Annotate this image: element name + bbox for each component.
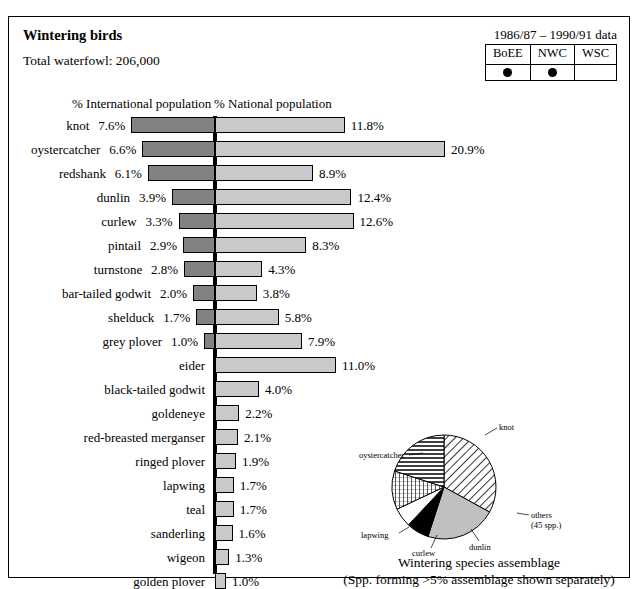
bar-international bbox=[196, 309, 215, 325]
column-header-national: % National population bbox=[214, 96, 332, 112]
species-label: curlew bbox=[9, 214, 137, 230]
species-label: golden plover bbox=[9, 574, 205, 589]
international-value-label: 7.6% bbox=[98, 118, 125, 134]
species-label: black-tailed godwit bbox=[9, 382, 205, 398]
bar-national bbox=[215, 237, 306, 253]
pie-label-knot: knot bbox=[499, 423, 514, 433]
national-value-label: 8.3% bbox=[312, 238, 339, 254]
species-label: lapwing bbox=[9, 478, 205, 494]
national-value-label: 4.3% bbox=[268, 262, 295, 278]
pie-label-lapwing: lapwing bbox=[361, 531, 388, 541]
international-value-label: 6.6% bbox=[109, 142, 136, 158]
national-value-label: 12.6% bbox=[360, 214, 394, 230]
national-value-label: 2.1% bbox=[244, 430, 271, 446]
bar-international bbox=[172, 189, 215, 205]
bar-national bbox=[215, 261, 262, 277]
filled-dot-icon bbox=[548, 68, 557, 77]
pie-chart: oystercatcher knot others (45 spp.) dunl… bbox=[339, 409, 629, 574]
row-label-group: knot7.6% bbox=[9, 115, 131, 139]
species-label: goldeneye bbox=[9, 406, 205, 422]
bar-national bbox=[215, 429, 238, 445]
international-value-label: 3.3% bbox=[146, 214, 173, 230]
international-value-label: 1.7% bbox=[163, 310, 190, 326]
species-label: pintail bbox=[9, 238, 141, 254]
pie-caption-line2: (Spp. forming >5% assemblage shown separ… bbox=[329, 572, 629, 589]
chart-row: redshank6.1%8.9% bbox=[9, 163, 629, 187]
species-label: ringed plover bbox=[9, 454, 205, 470]
row-label-group: redshank6.1% bbox=[9, 163, 148, 187]
species-label: teal bbox=[9, 502, 205, 518]
row-label-group: teal bbox=[9, 499, 215, 523]
bar-national bbox=[215, 285, 257, 301]
row-label-group: ringed plover bbox=[9, 451, 215, 475]
bar-national bbox=[215, 525, 233, 541]
chart-row: grey plover1.0%7.9% bbox=[9, 331, 629, 355]
survey-marks-row bbox=[485, 64, 616, 81]
international-value-label: 6.1% bbox=[115, 166, 142, 182]
pie-label-others-line2: (45 spp.) bbox=[531, 520, 561, 530]
bar-national bbox=[215, 333, 302, 349]
bar-national bbox=[215, 165, 313, 181]
bar-international bbox=[184, 261, 215, 277]
international-value-label: 3.9% bbox=[139, 190, 166, 206]
national-value-label: 1.6% bbox=[239, 526, 266, 542]
chart-row: turnstone2.8%4.3% bbox=[9, 259, 629, 283]
chart-row: bar-tailed godwit2.0%3.8% bbox=[9, 283, 629, 307]
survey-mark-nwc bbox=[530, 64, 574, 81]
row-label-group: red-breasted merganser bbox=[9, 427, 215, 451]
species-label: bar-tailed godwit bbox=[9, 286, 151, 302]
bar-international bbox=[204, 333, 215, 349]
national-value-label: 1.0% bbox=[232, 574, 259, 589]
national-value-label: 4.0% bbox=[265, 382, 292, 398]
national-value-label: 11.0% bbox=[342, 358, 375, 374]
national-value-label: 20.9% bbox=[451, 142, 485, 158]
species-label: oystercatcher bbox=[9, 142, 100, 158]
chart-row: shelduck1.7%5.8% bbox=[9, 307, 629, 331]
national-value-label: 1.7% bbox=[240, 502, 267, 518]
species-label: grey plover bbox=[9, 334, 162, 350]
species-label: sanderling bbox=[9, 526, 205, 542]
pie-label-others-line1: others bbox=[531, 510, 552, 520]
species-label: shelduck bbox=[9, 310, 154, 326]
pie-caption-line1: Wintering species assemblage bbox=[329, 555, 629, 572]
row-label-group: curlew3.3% bbox=[9, 211, 179, 235]
national-value-label: 11.8% bbox=[351, 118, 384, 134]
row-label-group: lapwing bbox=[9, 475, 215, 499]
survey-mark-wsc bbox=[574, 64, 616, 81]
filled-dot-icon bbox=[503, 68, 512, 77]
chart-row: eider11.0% bbox=[9, 355, 629, 379]
bar-national bbox=[215, 309, 279, 325]
row-label-group: grey plover1.0% bbox=[9, 331, 204, 355]
survey-header-row: BoEE NWC WSC bbox=[485, 45, 616, 65]
national-value-label: 12.4% bbox=[357, 190, 391, 206]
chart-row: oystercatcher6.6%20.9% bbox=[9, 139, 629, 163]
bar-national bbox=[215, 189, 351, 205]
row-label-group: shelduck1.7% bbox=[9, 307, 196, 331]
row-label-group: goldeneye bbox=[9, 403, 215, 427]
species-label: wigeon bbox=[9, 550, 205, 566]
survey-source-table: BoEE NWC WSC bbox=[485, 44, 617, 81]
chart-row: black-tailed godwit4.0% bbox=[9, 379, 629, 403]
bar-national bbox=[215, 117, 345, 133]
row-label-group: black-tailed godwit bbox=[9, 379, 215, 403]
row-label-group: dunlin3.9% bbox=[9, 187, 172, 211]
row-label-group: pintail2.9% bbox=[9, 235, 183, 259]
national-value-label: 7.9% bbox=[308, 334, 335, 350]
bar-international bbox=[142, 141, 215, 157]
bar-international bbox=[131, 117, 215, 133]
chart-row: pintail2.9%8.3% bbox=[9, 235, 629, 259]
survey-col-boee: BoEE bbox=[485, 45, 530, 65]
chart-row: knot7.6%11.8% bbox=[9, 115, 629, 139]
survey-col-wsc: WSC bbox=[574, 45, 616, 65]
survey-col-nwc: NWC bbox=[530, 45, 574, 65]
bar-international bbox=[179, 213, 215, 229]
bar-national bbox=[215, 405, 239, 421]
total-waterfowl-label: Total waterfowl: 206,000 bbox=[23, 53, 160, 69]
bar-national bbox=[215, 573, 226, 589]
row-label-group: turnstone2.8% bbox=[9, 259, 184, 283]
chart-row: dunlin3.9%12.4% bbox=[9, 187, 629, 211]
bar-national bbox=[215, 213, 354, 229]
species-label: dunlin bbox=[9, 190, 130, 206]
national-value-label: 8.9% bbox=[319, 166, 346, 182]
row-label-group: golden plover bbox=[9, 571, 215, 589]
